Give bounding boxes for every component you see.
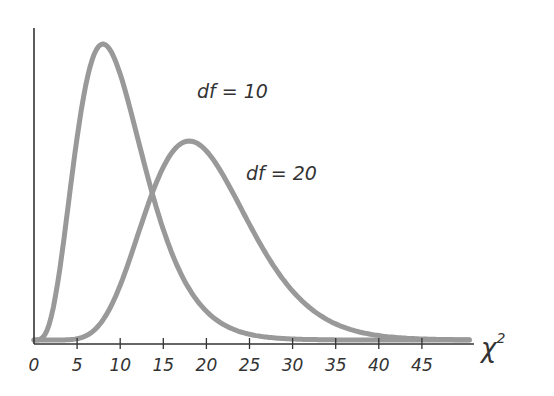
x-tick-label: 15	[152, 355, 174, 375]
x-tick-label: 20	[196, 355, 218, 375]
x-tick-label: 35	[325, 355, 347, 375]
x-tick-label: 30	[282, 355, 304, 375]
x-tick-label: 45	[411, 355, 433, 375]
df20-label: df = 20	[246, 162, 317, 184]
x-axis-title: χ2	[479, 330, 505, 363]
x-axis-superscript: 2	[496, 330, 505, 346]
df10-label: df = 10	[197, 80, 268, 102]
x-tick-label: 0	[29, 355, 40, 375]
x-tick-label: 10	[109, 355, 131, 375]
chi-square-chart: 051015202530354045 df = 10 df = 20 χ2	[0, 0, 554, 396]
x-tick-label: 5	[72, 355, 83, 375]
x-tick-label: 25	[239, 355, 261, 375]
x-tick-label: 40	[368, 355, 390, 375]
